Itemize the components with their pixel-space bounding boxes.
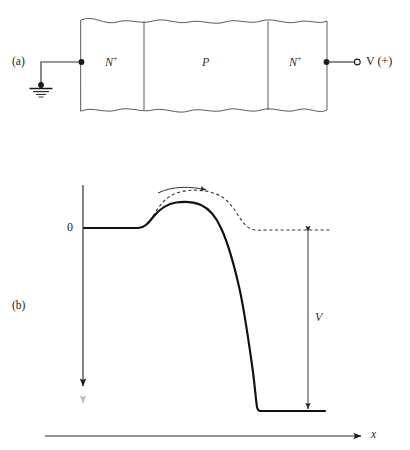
x-axis-label: x bbox=[371, 429, 376, 441]
region-label-n-plus-left: N+ bbox=[105, 55, 118, 68]
zero-level-label: 0 bbox=[67, 221, 73, 233]
region-label-p-text: P bbox=[202, 55, 209, 69]
region-label-n-plus-right-text: N bbox=[289, 55, 297, 69]
bias-terminal-open-circle bbox=[354, 59, 360, 65]
bias-drop-label: V bbox=[315, 311, 322, 323]
curved-arrow-right-icon bbox=[158, 187, 206, 193]
potential-diagram-group bbox=[45, 185, 361, 436]
left-contact-dot bbox=[79, 59, 85, 65]
figure-root: (a) (b) N+ P N+ V (+) 0 V x bbox=[0, 0, 410, 450]
region-label-p: P bbox=[202, 55, 209, 68]
ground-icon bbox=[30, 89, 53, 98]
region-label-n-plus-right-sup: + bbox=[297, 54, 302, 63]
panel-tag-b: (b) bbox=[12, 300, 25, 312]
region-label-n-plus-right: N+ bbox=[289, 55, 302, 68]
biased-solid-curve bbox=[84, 202, 325, 411]
panel-tag-a: (a) bbox=[12, 56, 25, 68]
ground-node-dot bbox=[38, 82, 44, 88]
ground-lead-wire bbox=[41, 62, 81, 85]
device-schematic-group bbox=[30, 18, 361, 112]
bias-terminal-label: V (+) bbox=[366, 55, 392, 67]
region-label-n-plus-left-text: N bbox=[105, 55, 113, 69]
region-label-n-plus-left-sup: + bbox=[113, 54, 118, 63]
